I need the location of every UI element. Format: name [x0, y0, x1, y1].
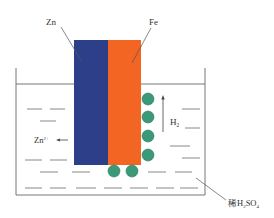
bubble [126, 165, 138, 177]
iron-electrode [108, 40, 141, 165]
bubble [142, 111, 154, 123]
arrow-up-icon [161, 95, 164, 100]
bubble [108, 165, 120, 177]
bubble [142, 130, 154, 142]
bubble [142, 149, 154, 161]
acid-leader-line [196, 178, 226, 200]
bubble [142, 93, 154, 105]
zinc-ion-arrow [56, 139, 68, 142]
hydrogen-arrow [161, 95, 164, 132]
arrow-left-icon [56, 139, 60, 142]
acid-label: 稀H2SO4 [228, 198, 260, 209]
zinc-electrode [74, 40, 108, 165]
zinc-iron-cell-diagram: H2 Zn2+ Zn Fe 稀H2SO4 [0, 0, 274, 218]
zinc-label: Zn [46, 17, 56, 27]
hydrogen-label: H2 [170, 117, 180, 128]
iron-label: Fe [149, 17, 158, 27]
zinc-ion-label: Zn2+ [34, 135, 49, 145]
